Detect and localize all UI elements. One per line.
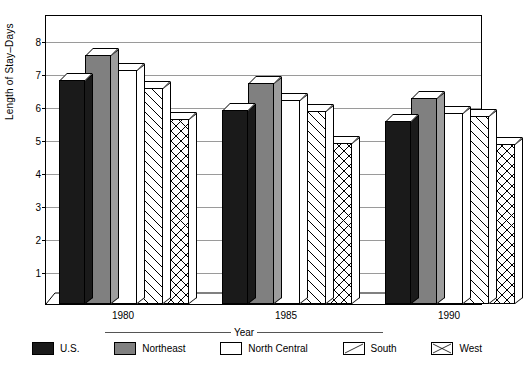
y-tick-label: 6 <box>35 103 41 114</box>
y-tick-label: 3 <box>35 202 41 213</box>
y-tick-label: 1 <box>35 268 41 279</box>
x-axis-rule-right <box>257 332 383 333</box>
bar-u-s-1980 <box>59 80 85 304</box>
bar-side-face <box>163 82 171 304</box>
x-tick-label-1990: 1990 <box>438 310 460 321</box>
legend-swatch-icon <box>431 342 453 355</box>
x-tick-label-1985: 1985 <box>275 310 297 321</box>
bar-side-face <box>515 138 523 304</box>
x-axis-title: Year <box>231 327 257 338</box>
legend-swatch-icon <box>343 342 365 355</box>
y-tick-mark <box>42 42 46 43</box>
bar-side-face <box>111 49 119 304</box>
legend-label: North Central <box>248 343 307 354</box>
plot-area: 12345678 <box>45 15 482 305</box>
y-axis-title: Length of Stay–Days <box>4 0 15 120</box>
y-tick-label: 5 <box>35 136 41 147</box>
bar-side-face <box>85 74 93 304</box>
legend-label: South <box>371 343 397 354</box>
legend-label: Northeast <box>142 343 185 354</box>
legend-item-west[interactable]: West <box>431 342 482 355</box>
y-tick-mark <box>42 141 46 142</box>
x-axis-rule-left <box>105 332 231 333</box>
bar-side-face <box>463 107 471 304</box>
y-tick-mark <box>42 273 46 274</box>
y-tick-mark <box>42 75 46 76</box>
y-tick-label: 2 <box>35 235 41 246</box>
bar-side-face <box>326 105 334 304</box>
legend-swatch-icon <box>114 342 136 355</box>
bar-u-s-1990 <box>385 121 411 304</box>
legend-item-south[interactable]: South <box>343 342 397 355</box>
plot-inner: 12345678 <box>46 16 481 304</box>
bar-side-face <box>411 115 419 304</box>
bar-front-face <box>222 110 248 304</box>
legend-label: West <box>459 343 482 354</box>
legend-label: U.S. <box>60 343 79 354</box>
bar-u-s-1985 <box>222 110 248 304</box>
y-tick-mark <box>42 240 46 241</box>
gridline <box>46 42 481 43</box>
bar-front-face <box>385 121 411 304</box>
legend-item-northeast[interactable]: Northeast <box>114 342 185 355</box>
chart-legend: U.S.NortheastNorth CentralSouthWest <box>32 342 482 355</box>
y-tick-label: 8 <box>35 37 41 48</box>
legend-swatch-icon <box>32 342 54 355</box>
y-tick-mark <box>42 207 46 208</box>
bar-front-face <box>59 80 85 304</box>
y-tick-mark <box>42 108 46 109</box>
bar-side-face <box>352 136 360 304</box>
bar-side-face <box>189 113 197 304</box>
y-tick-mark <box>42 174 46 175</box>
y-tick-label: 7 <box>35 70 41 81</box>
bar-side-face <box>437 92 445 304</box>
legend-swatch-icon <box>220 342 242 355</box>
y-tick-label: 4 <box>35 169 41 180</box>
bar-side-face <box>300 93 308 304</box>
bar-side-face <box>489 110 497 304</box>
bar-side-face <box>274 77 282 304</box>
bar-side-face <box>137 64 145 304</box>
legend-item-north-central[interactable]: North Central <box>220 342 307 355</box>
x-axis-title-row: Year <box>105 326 383 338</box>
x-tick-label-1980: 1980 <box>112 310 134 321</box>
bar-side-face <box>248 103 256 304</box>
legend-item-u-s[interactable]: U.S. <box>32 342 79 355</box>
